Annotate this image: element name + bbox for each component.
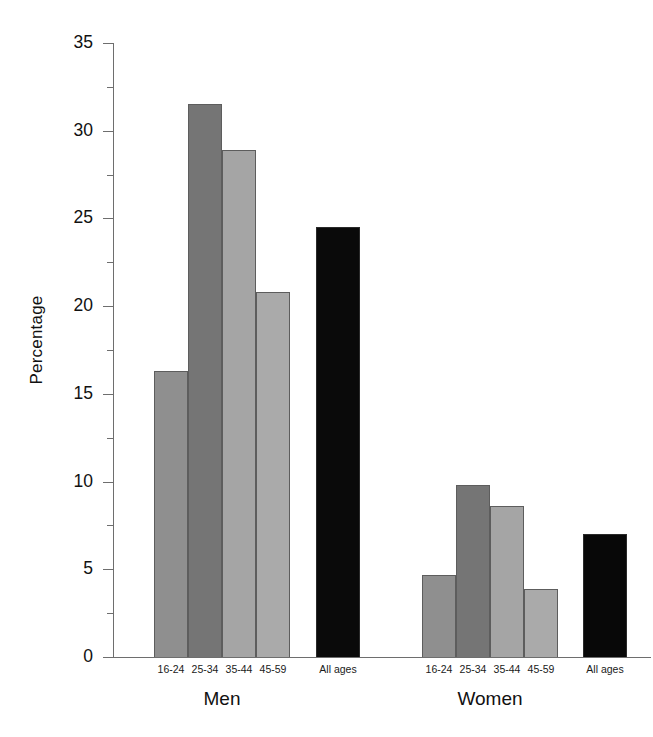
bar	[256, 292, 290, 657]
y-tick-minor	[107, 350, 113, 351]
y-tick-major	[103, 394, 113, 395]
bar	[154, 371, 188, 657]
y-tick-minor	[107, 262, 113, 263]
category-label-all-ages: All ages	[586, 663, 623, 675]
category-label: 25-34	[192, 663, 219, 675]
y-tick-label: 35	[41, 34, 93, 52]
y-tick-major	[103, 43, 113, 44]
group-label-men: Men	[204, 688, 241, 710]
y-tick-major	[103, 306, 113, 307]
bar	[188, 104, 222, 657]
bar	[222, 150, 256, 657]
category-label: 35-44	[494, 663, 521, 675]
y-tick-label: 30	[41, 122, 93, 140]
y-tick-minor	[107, 438, 113, 439]
y-tick-minor	[107, 525, 113, 526]
y-axis-line	[113, 43, 114, 657]
y-tick-label: 20	[41, 297, 93, 315]
category-label: 45-59	[528, 663, 555, 675]
category-label: 35-44	[226, 663, 253, 675]
y-tick-major	[103, 482, 113, 483]
bar-chart: Percentage 3530252015105016-2425-3435-44…	[0, 0, 653, 737]
plot-area: 3530252015105016-2425-3435-4445-59All ag…	[113, 43, 651, 657]
y-tick-major	[103, 218, 113, 219]
bar	[422, 575, 456, 657]
y-tick-minor	[107, 87, 113, 88]
bar	[524, 589, 558, 657]
x-axis-line	[113, 657, 651, 658]
y-tick-major	[103, 657, 113, 658]
y-tick-label: 0	[41, 648, 93, 666]
bar	[490, 506, 524, 657]
category-label-all-ages: All ages	[319, 663, 356, 675]
y-tick-label: 25	[41, 210, 93, 228]
y-tick-minor	[107, 613, 113, 614]
y-tick-major	[103, 131, 113, 132]
y-tick-label: 10	[41, 473, 93, 491]
bar	[456, 485, 490, 657]
bar-all-ages	[316, 227, 360, 657]
y-tick-label: 5	[41, 561, 93, 579]
bar-all-ages	[583, 534, 627, 657]
category-label: 45-59	[260, 663, 287, 675]
category-label: 25-34	[460, 663, 487, 675]
y-tick-minor	[107, 175, 113, 176]
group-label-women: Women	[457, 688, 522, 710]
category-label: 16-24	[158, 663, 185, 675]
y-tick-label: 15	[41, 385, 93, 403]
category-label: 16-24	[426, 663, 453, 675]
y-tick-major	[103, 569, 113, 570]
